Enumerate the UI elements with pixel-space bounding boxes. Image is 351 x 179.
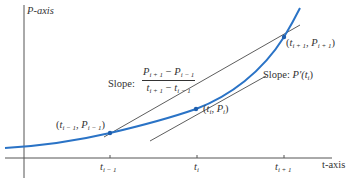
tick-label-t-curr: ti [194,162,199,174]
p-axis-label: P-axis [27,6,54,17]
t-axis-label: t-axis [322,160,345,171]
point-label-prev: (ti − 1, Pi − 1) [56,120,105,132]
secant-numerator: Pi + 1 − Pi − 1 [142,66,195,81]
point-label-next: (ti + 1, Pi + 1) [286,38,335,50]
point-curr [194,107,198,111]
secant-denominator: ti + 1 − ti − 1 [142,81,195,95]
point-prev [108,131,112,135]
tangent-slope-label: Slope: P′(ti) [263,70,313,82]
secant-slope-fraction: Pi + 1 − Pi − 1 ti + 1 − ti − 1 [142,66,195,96]
p-axis-label-text: P-axis [27,5,54,16]
point-label-curr: (ti, Pi) [203,104,229,116]
t-axis-label-text: t-axis [322,159,345,170]
tick-label-t-next: ti + 1 [275,162,292,174]
secant-slope-label: Slope: [108,79,135,90]
tick-label-t-prev: ti − 1 [100,162,117,174]
